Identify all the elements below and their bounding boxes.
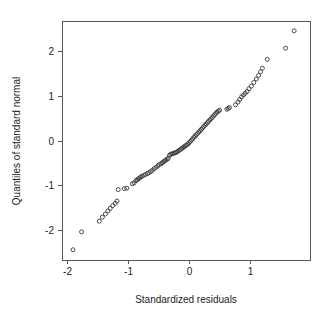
x-tick-label: -1 [124,266,133,277]
x-axis-title: Standardized residuals [135,294,237,305]
y-tick-label: 1 [48,91,54,102]
y-tick-label: -1 [45,180,54,191]
y-tick-label: 0 [48,136,54,147]
qq-plot-figure: -2-101 -2-1012 Standardized residuals Qu… [0,0,324,318]
qq-plot-canvas: -2-101 -2-1012 Standardized residuals Qu… [0,0,324,318]
x-tick-label: -2 [63,266,72,277]
y-tick-label: 2 [48,46,54,57]
x-tick-label: 0 [187,266,193,277]
x-tick-label: 1 [248,266,254,277]
y-tick-label: -2 [45,225,54,236]
y-axis-title: Quantiles of standard normal [11,77,22,205]
